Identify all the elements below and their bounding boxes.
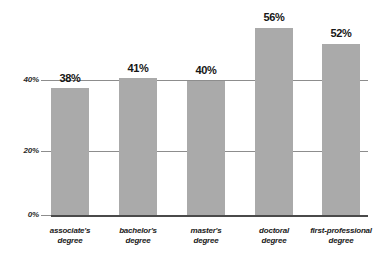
ytick-label-0: 0% — [8, 210, 39, 219]
category-label-line1: bachelor's — [102, 226, 174, 236]
value-label-masters-degree: 40% — [181, 64, 231, 76]
plot-area: 40% 20% 0% 38% 41% 40% 56% 52% associate… — [0, 0, 392, 262]
value-label-first-professional-degree: 52% — [316, 27, 366, 39]
category-label-bachelors-degree: bachelor's degree — [102, 226, 174, 246]
category-label-line2: degree — [300, 236, 382, 246]
tick-stub-20 — [41, 151, 51, 152]
category-label-line1: master's — [170, 226, 242, 236]
bar-bachelors-degree — [119, 78, 157, 215]
bar-doctoral-degree — [255, 28, 293, 215]
category-label-line2: degree — [102, 236, 174, 246]
value-label-doctoral-degree: 56% — [249, 11, 299, 23]
category-label-first-professional-degree: first-professional degree — [300, 226, 382, 246]
value-label-bachelors-degree: 41% — [113, 62, 163, 74]
bar-first-professional-degree — [322, 44, 360, 215]
category-label-line1: first-professional — [300, 226, 382, 236]
category-label-line1: associate's — [34, 226, 106, 236]
category-label-line2: degree — [34, 236, 106, 246]
ytick-label-20: 20% — [8, 146, 39, 155]
ytick-label-40: 40% — [8, 75, 39, 84]
bar-masters-degree — [187, 81, 225, 215]
category-label-masters-degree: master's degree — [170, 226, 242, 246]
category-label-line2: degree — [170, 236, 242, 246]
tick-stub-0 — [41, 215, 51, 216]
axis-baseline-0 — [51, 215, 368, 217]
category-label-associates-degree: associate's degree — [34, 226, 106, 246]
value-label-associates-degree: 38% — [45, 72, 95, 84]
bar-associates-degree — [51, 88, 89, 215]
bar-chart: 40% 20% 0% 38% 41% 40% 56% 52% associate… — [0, 0, 392, 262]
